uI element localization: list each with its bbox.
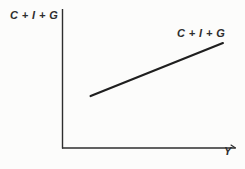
figure-canvas: C + I + G C + I + G Y xyxy=(0,0,245,169)
expenditure-line xyxy=(91,43,223,96)
curve-label: C + I + G xyxy=(177,28,225,39)
y-axis-label: C + I + G xyxy=(10,10,58,21)
plot-svg xyxy=(0,0,245,169)
x-axis-label: Y xyxy=(224,146,232,157)
